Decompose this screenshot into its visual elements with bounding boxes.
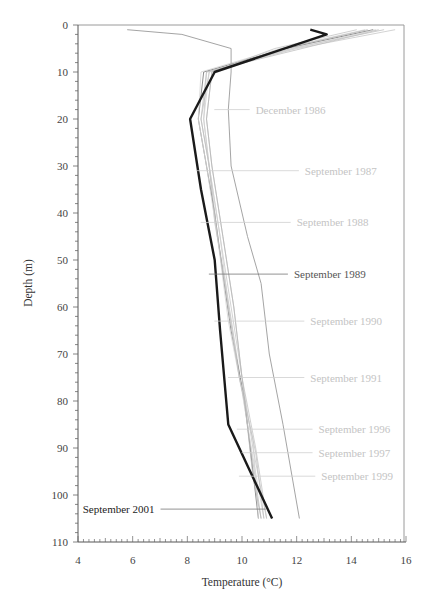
series-label: September 1987 [305, 165, 377, 177]
series-label: September 1989 [294, 268, 366, 280]
y-tick-label: 70 [57, 348, 69, 360]
y-tick-label: 30 [57, 160, 69, 172]
series-label: September 1990 [310, 315, 382, 327]
x-tick-label: 16 [401, 554, 413, 566]
x-tick-label: 8 [185, 554, 191, 566]
y-tick-label: 50 [57, 254, 69, 266]
y-tick-label: 90 [57, 442, 69, 454]
y-tick-label: 60 [57, 301, 69, 313]
x-axis: 46810121416 [75, 536, 412, 566]
x-tick-label: 14 [346, 554, 358, 566]
y-tick-label: 10 [57, 66, 69, 78]
y-tick-label: 100 [52, 489, 69, 501]
x-tick-label: 10 [237, 554, 249, 566]
y-axis: 0102030405060708090100110 [52, 19, 79, 548]
series-label: September 1991 [310, 372, 382, 384]
y-tick-label: 110 [52, 536, 69, 548]
x-tick-label: 12 [291, 554, 302, 566]
series-label: September 1997 [319, 447, 391, 459]
x-tick-label: 4 [75, 554, 81, 566]
y-tick-label: 40 [57, 207, 69, 219]
series-label: September 1996 [319, 423, 391, 435]
series-label: September 2001 [83, 503, 155, 515]
x-tick-label: 6 [130, 554, 136, 566]
y-axis-label: Depth (m) [22, 259, 35, 307]
series-label: September 1999 [321, 470, 393, 482]
x-axis-label: Temperature (°C) [202, 576, 283, 589]
depth-temperature-chart: 0102030405060708090100110 46810121416 De… [0, 0, 429, 611]
series-labels: December 1986September 1987September 198… [83, 104, 394, 515]
series-label: December 1986 [256, 104, 326, 116]
plot-frame [78, 25, 404, 542]
y-tick-label: 80 [57, 395, 69, 407]
y-tick-label: 0 [63, 19, 69, 31]
y-tick-label: 20 [57, 113, 69, 125]
series-label: September 1988 [297, 216, 369, 228]
